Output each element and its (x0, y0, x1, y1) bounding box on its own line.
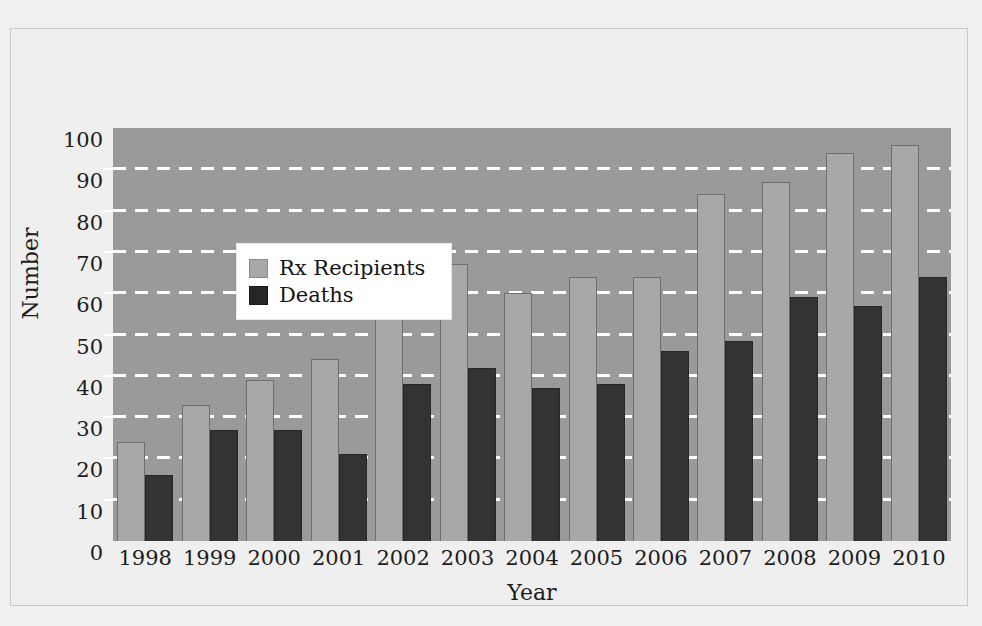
bar-deaths-2007 (725, 341, 753, 541)
x-tick-label-2003: 2003 (435, 546, 499, 580)
bar-deaths-2008 (790, 297, 818, 541)
bar-group-2004 (500, 128, 564, 541)
bar-rx-recipients-1999 (182, 405, 210, 541)
bar-deaths-2010 (919, 277, 947, 541)
legend: Rx Recipients Deaths (237, 244, 451, 319)
bar-rx-recipients-1998 (117, 442, 145, 541)
bar-rx-recipients-2009 (826, 153, 854, 541)
figure-frame: Number 0102030405060708090100 Rx Recipie… (10, 28, 968, 606)
bar-rx-recipients-2000 (246, 380, 274, 541)
bar-group-2002 (371, 128, 435, 541)
legend-item-deaths: Deaths (249, 283, 425, 307)
bar-deaths-2001 (339, 454, 367, 541)
bar-deaths-2009 (854, 306, 882, 541)
bar-rx-recipients-2008 (762, 182, 790, 541)
bar-deaths-1999 (210, 430, 238, 542)
bar-group-2001 (306, 128, 370, 541)
x-tick-label-2006: 2006 (629, 546, 693, 580)
x-tick-label-2001: 2001 (306, 546, 370, 580)
y-tick-mark-80 (103, 210, 113, 212)
plot-area: Rx Recipients Deaths (113, 128, 951, 541)
y-axis-label: Number (18, 228, 43, 320)
bar-rx-recipients-2001 (311, 359, 339, 541)
x-axis-label: Year (113, 580, 951, 605)
x-tick-label-2008: 2008 (758, 546, 822, 580)
bar-rx-recipients-2004 (504, 293, 532, 541)
bar-group-2005 (564, 128, 628, 541)
bar-rx-recipients-2002 (375, 301, 403, 541)
bar-rx-recipients-2005 (569, 277, 597, 541)
x-tick-label-2000: 2000 (242, 546, 306, 580)
bar-deaths-2003 (468, 368, 496, 541)
bar-group-2009 (822, 128, 886, 541)
bar-group-2007 (693, 128, 757, 541)
bar-groups (113, 128, 951, 541)
x-axis-ticks: 1998199920002001200220032004200520062007… (113, 546, 951, 580)
y-tick-mark-60 (103, 292, 113, 294)
y-tick-mark-10 (103, 499, 113, 501)
bar-rx-recipients-2010 (891, 145, 919, 541)
legend-swatch-deaths (249, 286, 268, 305)
legend-item-rx-recipients: Rx Recipients (249, 256, 425, 280)
x-tick-label-1998: 1998 (113, 546, 177, 580)
bar-group-2000 (242, 128, 306, 541)
bar-group-1999 (177, 128, 241, 541)
legend-label-rx-recipients: Rx Recipients (279, 256, 425, 280)
x-tick-label-1999: 1999 (177, 546, 241, 580)
figure: Number 0102030405060708090100 Rx Recipie… (0, 0, 982, 626)
y-axis-ticks: 0102030405060708090100 (51, 128, 103, 541)
bar-rx-recipients-2007 (697, 194, 725, 541)
bar-group-2003 (435, 128, 499, 541)
x-tick-label-2002: 2002 (371, 546, 435, 580)
bar-deaths-2000 (274, 430, 302, 542)
bar-group-1998 (113, 128, 177, 541)
x-tick-label-2005: 2005 (564, 546, 628, 580)
bar-group-2010 (887, 128, 951, 541)
bar-group-2006 (629, 128, 693, 541)
x-tick-label-2007: 2007 (693, 546, 757, 580)
x-tick-label-2004: 2004 (500, 546, 564, 580)
legend-label-deaths: Deaths (279, 283, 354, 307)
legend-swatch-rx-recipients (249, 259, 268, 278)
x-tick-label-2010: 2010 (887, 546, 951, 580)
y-tick-mark-90 (103, 168, 113, 170)
bar-group-2008 (758, 128, 822, 541)
x-tick-label-2009: 2009 (822, 546, 886, 580)
y-tick-mark-40 (103, 375, 113, 377)
bar-rx-recipients-2006 (633, 277, 661, 541)
y-tick-mark-20 (103, 457, 113, 459)
bar-deaths-2002 (403, 384, 431, 541)
bar-deaths-1998 (145, 475, 173, 541)
y-tick-mark-30 (103, 416, 113, 418)
bar-deaths-2004 (532, 388, 560, 541)
bar-deaths-2005 (597, 384, 625, 541)
bar-deaths-2006 (661, 351, 689, 541)
y-tick-mark-50 (103, 334, 113, 336)
y-tick-mark-70 (103, 251, 113, 253)
